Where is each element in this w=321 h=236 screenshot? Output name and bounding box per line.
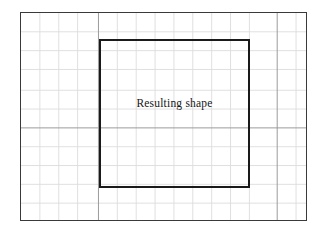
resulting-shape (99, 39, 250, 188)
resulting-shape-label: Resulting shape (99, 96, 250, 110)
figure-root: Resulting shape (0, 0, 321, 236)
canvas-frame: Resulting shape (20, 12, 307, 221)
